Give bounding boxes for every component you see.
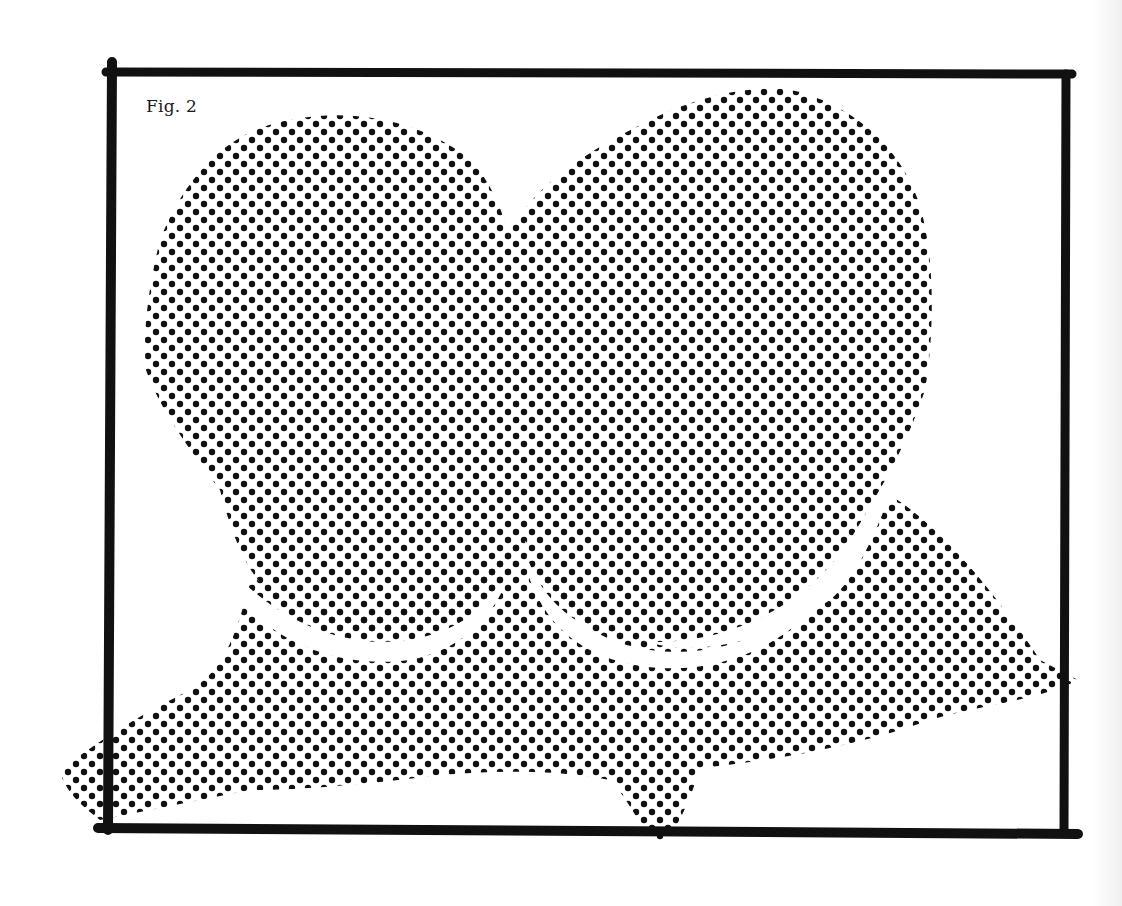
figure: Fig. 2 <box>0 0 1122 906</box>
figure-label: Fig. 2 <box>146 96 197 116</box>
halftone-illustration <box>0 0 1122 906</box>
left-lobe <box>145 115 526 632</box>
page-edge-shadow <box>1092 0 1122 906</box>
